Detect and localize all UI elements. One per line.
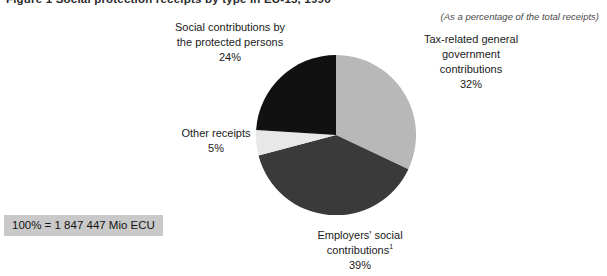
slice-label-tax-related: Tax-related general government contribut… — [396, 32, 546, 92]
slice-label-line3: contributions — [440, 63, 502, 75]
pie-chart-svg — [256, 55, 416, 215]
slice-label-other-receipts: Other receipts 5% — [168, 126, 264, 156]
slice-label-line2: the protected persons — [177, 36, 283, 48]
slice-label-line1: Social contributions by — [175, 21, 285, 33]
total-value-box: 100% = 1 847 447 Mio ECU — [4, 215, 163, 236]
figure-title: Figure 1 Social protection receipts by t… — [6, 0, 331, 5]
pie-slice-protected-persons[interactable] — [256, 55, 336, 135]
slice-label-line1: Employers' social — [317, 229, 402, 241]
slice-label-employers: Employers' social contributions1 39% — [262, 228, 458, 273]
slice-label-line1: Tax-related general — [424, 33, 518, 45]
figure-canvas: Figure 1 Social protection receipts by t… — [0, 0, 607, 276]
slice-label-protected-persons: Social contributions by the protected pe… — [141, 20, 319, 65]
slice-value-tax-related: 32% — [396, 77, 546, 92]
slice-value-protected-persons: 24% — [141, 50, 319, 65]
slice-label-line1: Other receipts — [181, 127, 250, 139]
footnote-marker: 1 — [389, 243, 393, 250]
slice-label-line2: government — [442, 48, 500, 60]
slice-label-line2: contributions — [327, 244, 389, 256]
figure-subtitle-note: (As a percentage of the total receipts) — [441, 11, 599, 22]
slice-value-other-receipts: 5% — [168, 141, 264, 156]
pie-chart — [256, 55, 416, 215]
slice-value-employers: 39% — [262, 258, 458, 273]
